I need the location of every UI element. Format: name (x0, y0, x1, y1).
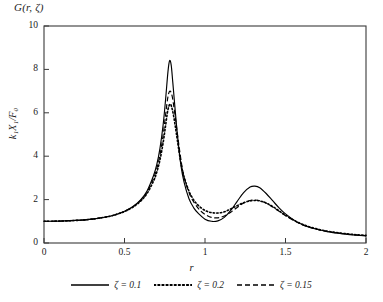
series-line-3 (44, 91, 366, 236)
series-line-1 (44, 60, 366, 235)
x-tick-label: 1.5 (276, 247, 296, 257)
legend-swatch-solid (71, 281, 109, 289)
legend-item-1[interactable]: ζ = 0.1 (71, 280, 141, 290)
legend-item-3[interactable]: ζ = 0.15 (237, 280, 312, 290)
series-line-2 (44, 104, 366, 235)
legend-label: ζ = 0.2 (197, 280, 224, 290)
chart-legend: ζ = 0.1ζ = 0.2ζ = 0.15 (0, 280, 383, 290)
y-tick-label: 10 (16, 20, 38, 30)
y-tick-label: 2 (16, 194, 38, 204)
y-tick-label: 6 (16, 107, 38, 117)
legend-swatch-dotted (154, 281, 192, 289)
legend-item-2[interactable]: ζ = 0.2 (154, 280, 224, 290)
x-tick-label: 2 (356, 247, 376, 257)
legend-label: ζ = 0.1 (114, 280, 141, 290)
x-tick-label: 0.5 (115, 247, 135, 257)
y-tick-label: 0 (16, 237, 38, 247)
figure-container: G(r, ζ) k₁X₁/F₀ r 00.511.52 0246810 ζ = … (0, 0, 383, 302)
legend-swatch-dashed (237, 281, 275, 289)
x-tick-label: 0 (34, 247, 54, 257)
plot-area (0, 0, 383, 302)
legend-label: ζ = 0.15 (280, 280, 312, 290)
y-tick-label: 4 (16, 150, 38, 160)
y-tick-label: 8 (16, 63, 38, 73)
x-tick-label: 1 (195, 247, 215, 257)
